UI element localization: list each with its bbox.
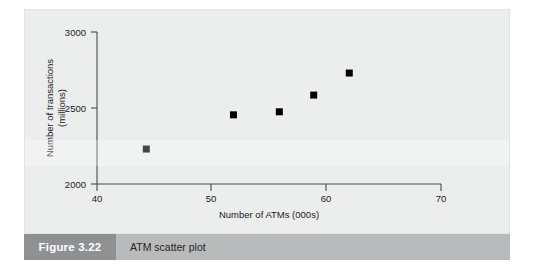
y-axis-title-line2: (millions) <box>56 89 67 127</box>
y-axis-title-line1: Number of transactions <box>44 59 55 157</box>
data-point <box>143 146 150 153</box>
figure-number-box: Figure 3.22 <box>24 234 116 260</box>
x-tick-label-50: 50 <box>206 193 217 204</box>
x-tick-label-70: 70 <box>436 193 447 204</box>
figure-container: 3000 2500 2000 40 50 60 70 Number of ATM… <box>0 0 534 277</box>
y-tick-label-3000: 3000 <box>65 27 86 38</box>
data-point <box>230 111 237 118</box>
scatter-chart: 3000 2500 2000 40 50 60 70 Number of ATM… <box>25 10 511 235</box>
figure-caption-bar: Figure 3.22 ATM scatter plot <box>24 234 510 260</box>
x-axis-title: Number of ATMs (000s) <box>219 209 319 220</box>
y-tick-label-2000: 2000 <box>65 179 86 190</box>
plot-area: 3000 2500 2000 40 50 60 70 Number of ATM… <box>25 10 511 235</box>
figure-number-label: Figure 3.22 <box>39 241 102 253</box>
data-point <box>346 70 353 77</box>
data-point-group <box>143 70 353 153</box>
x-tick-label-40: 40 <box>92 193 103 204</box>
x-tick-label-60: 60 <box>321 193 332 204</box>
data-point <box>276 108 283 115</box>
y-tick-label-2500: 2500 <box>65 103 86 114</box>
chart-panel: 3000 2500 2000 40 50 60 70 Number of ATM… <box>24 9 510 234</box>
data-point <box>310 92 317 99</box>
figure-caption-text: ATM scatter plot <box>130 234 206 260</box>
